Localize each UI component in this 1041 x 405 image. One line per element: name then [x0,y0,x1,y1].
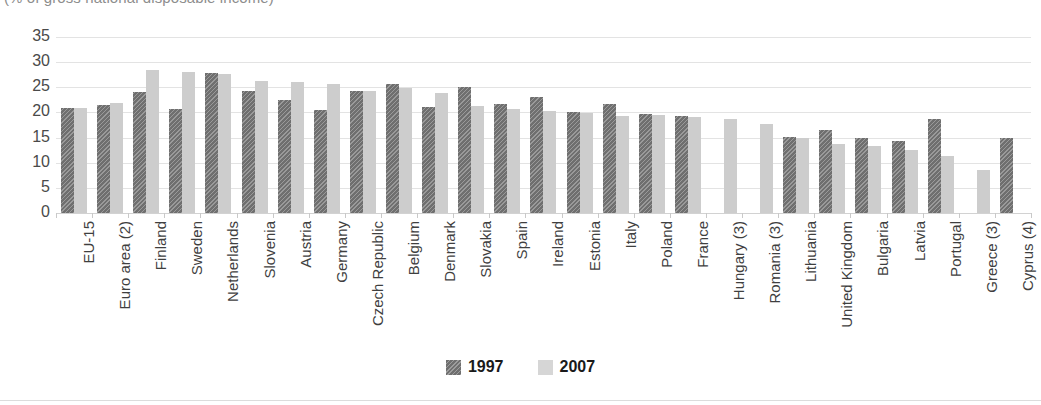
x-tickmark [923,213,924,218]
x-tickmark [128,213,129,218]
x-category: Czech Republic [345,219,381,344]
x-category: Estonia [562,219,598,344]
legend-item-1997[interactable]: 1997 [446,358,504,376]
bar-2007-bulgaria [868,146,881,213]
bar-group [887,37,923,213]
x-category: Spain [489,219,525,344]
bar-group [56,37,92,213]
x-category: Italy [598,219,634,344]
chart-subtitle: (% of gross national disposable income) [4,0,274,6]
x-category: Germany [309,219,345,344]
bar-group [959,37,995,213]
bar-2007-hungary-3 [724,119,737,213]
bar-2007-germany [327,84,340,213]
bar-1997-latvia [892,141,905,213]
x-category: Romania (3) [742,219,778,344]
bar-group [742,37,778,213]
x-tickmark [634,213,635,218]
x-tickmark [959,213,960,218]
x-tickmark [995,213,996,218]
x-tickmark [453,213,454,218]
x-category: Poland [634,219,670,344]
legend-item-2007[interactable]: 2007 [538,358,596,376]
x-category: Greece (3) [959,219,995,344]
bottom-divider [0,400,1041,401]
y-tick-label-15: 15 [4,128,50,146]
x-category: Cyprus (4) [995,219,1031,344]
chart-legend: 19972007 [0,358,1041,376]
x-category: Hungary (3) [706,219,742,344]
y-tick-label-30: 30 [4,52,50,70]
bar-group [381,37,417,213]
bar-2007-netherlands [218,74,231,213]
x-tickmark [850,213,851,218]
bar-2007-italy [616,116,629,213]
bar-2007-france [688,117,701,213]
y-tick-label-0: 0 [4,203,50,221]
x-tickmark [200,213,201,218]
bar-group [995,37,1031,213]
bar-group [923,37,959,213]
x-category: Slovakia [453,219,489,344]
x-tickmark [742,213,743,218]
x-category: Euro area (2) [92,219,128,344]
bar-group [489,37,525,213]
x-category: Netherlands [200,219,236,344]
dark-hatched-swatch [446,360,461,375]
legend-label-1997: 1997 [468,358,504,376]
bar-1997-bulgaria [855,138,868,213]
x-tickmark [345,213,346,218]
bar-2007-latvia [905,150,918,213]
y-axis: 05101520253035 [0,37,50,213]
x-axis-categories: EU-15Euro area (2)FinlandSwedenNetherlan… [56,219,1031,344]
x-tickmark [670,213,671,218]
bar-group [850,37,886,213]
legend-label-2007: 2007 [560,358,596,376]
x-category: United Kingdom [814,219,850,344]
bar-2007-sweden [182,72,195,213]
x-category: Portugal [923,219,959,344]
bar-group [598,37,634,213]
y-tick-label-25: 25 [4,77,50,95]
x-tickmark [237,213,238,218]
bar-2007-slovenia [255,81,268,213]
x-category: Ireland [525,219,561,344]
x-category: Belgium [381,219,417,344]
x-tickmark [417,213,418,218]
bar-1997-austria [278,100,291,213]
bar-group [92,37,128,213]
bar-group [670,37,706,213]
x-tickmark [381,213,382,218]
x-category: France [670,219,706,344]
bar-1997-euro-area-2 [97,105,110,213]
bar-group [417,37,453,213]
bar-2007-estonia [580,113,593,213]
bar-2007-greece-3 [977,170,990,213]
bar-group [200,37,236,213]
bar-1997-lithuania [783,137,796,213]
y-tick-label-10: 10 [4,153,50,171]
x-category: Bulgaria [850,219,886,344]
x-tickmark [56,213,57,218]
bar-group [562,37,598,213]
bar-2007-romania-3 [760,124,773,213]
x-category: Austria [273,219,309,344]
bar-1997-netherlands [205,73,218,213]
x-category: Denmark [417,219,453,344]
bar-1997-estonia [567,112,580,213]
bar-2007-belgium [399,88,412,213]
bar-1997-czech-republic [350,91,363,213]
x-category: Slovenia [237,219,273,344]
bar-2007-finland [146,70,159,213]
bar-1997-slovakia [458,87,471,213]
bar-1997-poland [639,114,652,213]
bar-2007-austria [291,82,304,213]
bar-1997-belgium [386,84,399,213]
bar-1997-finland [133,92,146,213]
x-category-label: Cyprus (4) [1020,221,1035,291]
bar-1997-ireland [530,97,543,213]
bar-group [814,37,850,213]
x-tickmark [562,213,563,218]
bar-group [309,37,345,213]
x-tickmark [525,213,526,218]
